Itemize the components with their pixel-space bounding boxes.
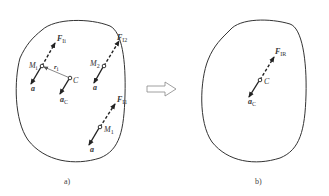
label-a-Mi: a: [31, 84, 35, 93]
point-Mi: [40, 64, 44, 68]
caption-b: b): [255, 177, 262, 186]
panel-a: FIi FI2 FI1 Mi M2 M1 ri C a a a aC a): [16, 20, 127, 186]
label-aC: aC: [60, 95, 68, 105]
point-C-b: [258, 78, 262, 82]
acceleration-aC-arrow: [60, 79, 69, 94]
panel-b: FIR C aC b): [202, 20, 306, 186]
point-C: [68, 76, 72, 80]
acceleration-a-M2-arrow: [94, 67, 103, 83]
label-a-M2: a: [93, 83, 97, 92]
label-F-I1: FI1: [116, 95, 127, 105]
label-a-M1: a: [90, 145, 94, 154]
hollow-right-arrow-icon: [147, 82, 176, 96]
label-F-Ii: FIi: [56, 34, 66, 44]
point-M1: [98, 125, 102, 129]
rigid-body-outline-b: [202, 20, 306, 162]
label-F-IR: FIR: [274, 47, 286, 57]
force-F-I1-arrow: [100, 104, 115, 127]
force-F-I2-arrow: [104, 41, 119, 66]
label-C: C: [73, 76, 79, 85]
label-ri: ri: [54, 63, 59, 72]
diagram-canvas: FIi FI2 FI1 Mi M2 M1 ri C a a a aC a) FI…: [0, 0, 329, 196]
acceleration-aC-b-arrow: [249, 81, 259, 97]
caption-a: a): [64, 177, 71, 186]
point-M2: [102, 64, 106, 68]
label-C-b: C: [264, 77, 270, 86]
label-Mi: Mi: [28, 61, 38, 71]
label-M2: M2: [89, 59, 100, 69]
label-aC-b: aC: [248, 97, 256, 107]
label-F-I2: FI2: [116, 33, 127, 43]
acceleration-a-M1-arrow: [89, 128, 99, 145]
label-M1: M1: [103, 125, 114, 135]
